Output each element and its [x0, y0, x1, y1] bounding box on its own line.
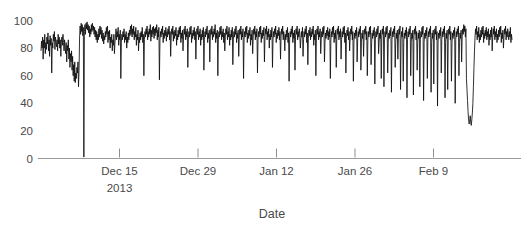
y-tick-label: 40	[20, 97, 33, 109]
x-axis-tick-marks	[120, 149, 434, 158]
y-tick-label: 100	[14, 15, 33, 27]
y-axis-tick-labels: 020406080100	[14, 15, 33, 165]
x-tick-label: Dec 29	[180, 165, 216, 177]
y-tick-label: 60	[20, 70, 33, 82]
x-tick-label: Jan 26	[338, 165, 373, 177]
x-axis-title: Date	[259, 207, 285, 221]
chart-container: 020406080100 Dec 152013Dec 29Jan 12Jan 2…	[0, 0, 531, 233]
data-series-line	[41, 22, 512, 157]
x-axis-tick-labels: Dec 152013Dec 29Jan 12Jan 26Feb 9	[101, 165, 448, 194]
y-tick-label: 80	[20, 42, 33, 54]
x-tick-label: Feb 9	[419, 165, 448, 177]
x-tick-label: Dec 15	[101, 165, 137, 177]
x-tick-sublabel: 2013	[107, 182, 133, 194]
x-tick-label: Jan 12	[259, 165, 294, 177]
y-tick-label: 0	[27, 153, 33, 165]
line-chart: 020406080100 Dec 152013Dec 29Jan 12Jan 2…	[0, 0, 531, 233]
y-tick-label: 20	[20, 125, 33, 137]
